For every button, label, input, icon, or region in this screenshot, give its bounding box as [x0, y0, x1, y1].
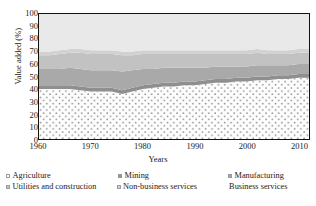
x-tick-label: 1980: [134, 142, 151, 151]
legend-label: Mining: [125, 171, 149, 180]
plot-area: [38, 13, 310, 140]
y-tick-label: 100: [25, 9, 38, 18]
y-tick-label: 80: [30, 34, 39, 43]
chart-legend: AgricultureMiningManufacturingUtilities …: [6, 171, 312, 193]
legend-label: Utilities and construction: [13, 182, 97, 191]
x-tick-label: 1960: [30, 142, 47, 151]
legend-item-business-services[interactable]: Business services: [225, 182, 312, 191]
area-bands-svg: [39, 14, 309, 139]
y-tick-label: 10: [30, 123, 39, 132]
legend-row: Utilities and constructionNon-business s…: [6, 182, 312, 191]
y-tick-label: 40: [30, 85, 39, 94]
legend-swatch-icon: [6, 174, 10, 178]
x-axis-tick-labels: 196019701980199020002010: [38, 142, 310, 154]
legend-item-mining[interactable]: Mining: [118, 171, 228, 180]
y-tick-label: 70: [30, 47, 39, 56]
area-band-business-services: [39, 14, 309, 52]
x-axis-title: Years: [0, 155, 316, 164]
legend-label: Non-business services: [123, 182, 197, 191]
legend-item-manufacturing[interactable]: Manufacturing: [228, 171, 312, 180]
legend-item-utilities-and-construction[interactable]: Utilities and construction: [6, 182, 117, 191]
x-tick-label: 2000: [239, 142, 256, 151]
y-tick-label: 30: [30, 98, 39, 107]
legend-swatch-icon: [6, 185, 10, 189]
legend-item-non-business-services[interactable]: Non-business services: [117, 182, 226, 191]
legend-label: Agriculture: [13, 171, 51, 180]
legend-item-agriculture[interactable]: Agriculture: [6, 171, 118, 180]
y-tick-label: 50: [30, 72, 39, 81]
x-tick-label: 2010: [291, 142, 308, 151]
x-tick-label: 1990: [186, 142, 203, 151]
legend-row: AgricultureMiningManufacturing: [6, 171, 312, 180]
legend-label: Manufacturing: [235, 171, 284, 180]
legend-swatch-icon: [228, 174, 232, 178]
y-tick-label: 20: [30, 110, 39, 119]
legend-swatch-icon: [117, 185, 121, 189]
y-tick-label: 90: [30, 21, 39, 30]
y-axis-tick-labels: 0102030405060708090100: [14, 10, 38, 142]
legend-swatch-icon: [118, 174, 122, 178]
stacked-area-chart-figure: Value added (%) 0102030405060708090100 1…: [0, 0, 316, 206]
x-tick-label: 1970: [82, 142, 99, 151]
legend-label: Business services: [229, 182, 287, 191]
y-tick-label: 60: [30, 60, 39, 69]
